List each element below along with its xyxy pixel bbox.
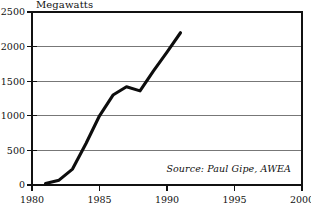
source-annotation: Source: Paul Gipe, AWEA (166, 163, 291, 174)
ytick-label-0: 0 (19, 179, 25, 190)
ytick-label-2000: 2000 (1, 41, 25, 52)
xtick-label-1985: 1985 (87, 194, 111, 205)
line-chart-plot: 0 500 1000 1500 2000 2500 1980 1985 1990… (0, 0, 311, 210)
ytick-label-2500: 2500 (1, 6, 25, 17)
chart-figure: Megawatts 0 500 1000 1500 2000 (0, 0, 311, 210)
x-axis-tick-labels: 1980 1985 1990 1995 2000 (20, 194, 311, 205)
plot-background (32, 12, 302, 185)
x-axis-ticks (32, 185, 302, 191)
xtick-label-1995: 1995 (222, 194, 246, 205)
ytick-label-500: 500 (7, 145, 25, 156)
xtick-label-2000: 2000 (290, 194, 311, 205)
ytick-label-1000: 1000 (1, 110, 25, 121)
y-axis-tick-labels: 0 500 1000 1500 2000 2500 (1, 6, 25, 190)
ytick-label-1500: 1500 (1, 76, 25, 87)
xtick-label-1980: 1980 (20, 194, 44, 205)
xtick-label-1990: 1990 (155, 194, 179, 205)
